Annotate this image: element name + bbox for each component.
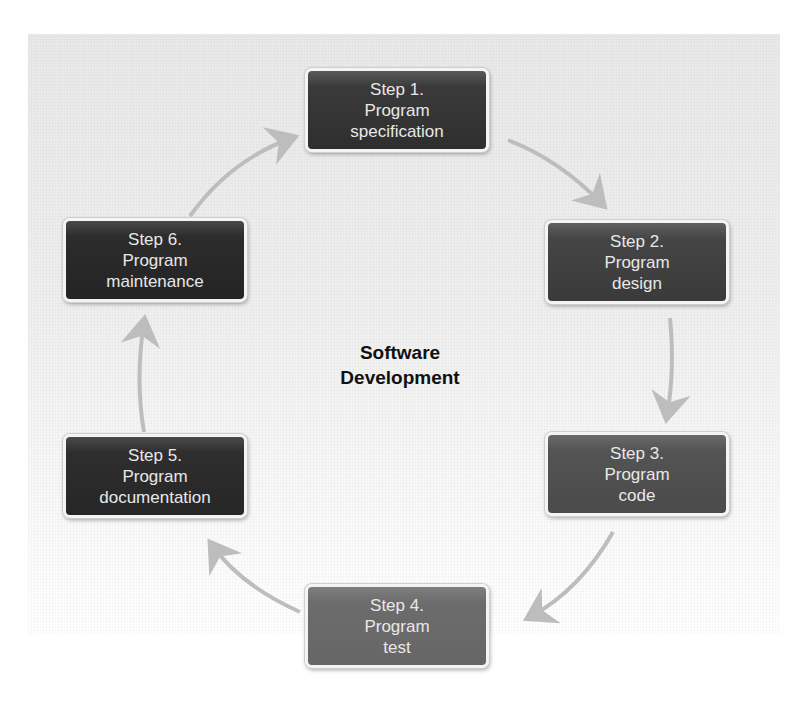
step-label-line1: Program xyxy=(122,250,187,271)
step-number: Step 2. xyxy=(610,231,664,252)
arrow-step2-to-step3 xyxy=(667,318,672,416)
center-title-line1: Software xyxy=(300,340,500,365)
arrow-step1-to-step2 xyxy=(508,140,602,204)
step-number: Step 3. xyxy=(610,443,664,464)
step-number: Step 6. xyxy=(128,229,182,250)
center-title-line2: Development xyxy=(300,365,500,390)
step-1-program-specification: Step 1. Program specification xyxy=(305,68,489,152)
step-label-line2: maintenance xyxy=(106,271,203,292)
step-label-line2: test xyxy=(383,637,410,658)
arrow-step3-to-step4 xyxy=(530,532,613,617)
step-label-line1: Program xyxy=(364,616,429,637)
step-label-line1: Program xyxy=(122,466,187,487)
step-label-line2: specification xyxy=(350,121,444,142)
step-label-line2: code xyxy=(619,485,656,506)
step-4-program-test: Step 4. Program test xyxy=(305,584,489,668)
diagram-center-title: Software Development xyxy=(300,340,500,390)
step-number: Step 5. xyxy=(128,445,182,466)
step-label-line2: documentation xyxy=(99,487,211,508)
step-label-line2: design xyxy=(612,273,662,294)
software-development-cycle-diagram: Step 1. Program specification Step 2. Pr… xyxy=(0,0,799,714)
arrow-step6-to-step1 xyxy=(190,138,292,216)
step-number: Step 4. xyxy=(370,595,424,616)
step-label-line1: Program xyxy=(604,252,669,273)
step-2-program-design: Step 2. Program design xyxy=(545,220,729,304)
step-number: Step 1. xyxy=(370,79,424,100)
step-5-program-documentation: Step 5. Program documentation xyxy=(63,434,247,518)
step-label-line1: Program xyxy=(364,100,429,121)
step-label-line1: Program xyxy=(604,464,669,485)
step-3-program-code: Step 3. Program code xyxy=(545,432,729,516)
arrow-step4-to-step5 xyxy=(212,545,300,612)
arrow-step5-to-step6 xyxy=(140,322,145,432)
step-6-program-maintenance: Step 6. Program maintenance xyxy=(63,218,247,302)
